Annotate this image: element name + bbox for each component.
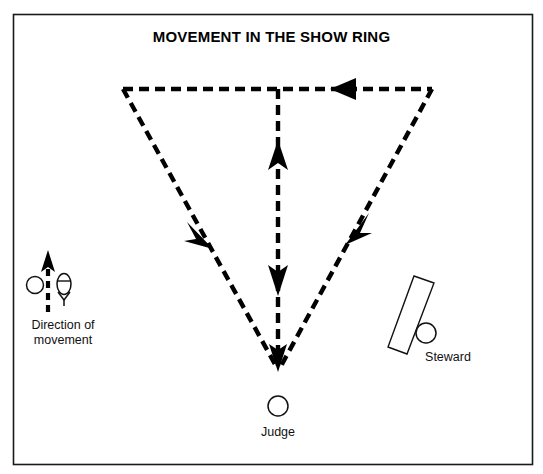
judge-label: Judge [228, 425, 328, 440]
steward-label: Steward [398, 350, 498, 365]
legend-caption: Direction of movement [4, 318, 122, 348]
legend-dog-icon [27, 277, 44, 294]
legend-handler-body-icon [57, 274, 71, 295]
diagram-canvas [0, 0, 543, 474]
page-title: MOVEMENT IN THE SHOW RING [0, 28, 543, 45]
show-ring-diagram: MOVEMENT IN THE SHOW RING Direction of m… [0, 0, 543, 474]
steward-marker-icon [416, 323, 436, 343]
judge-marker-icon [268, 396, 288, 416]
